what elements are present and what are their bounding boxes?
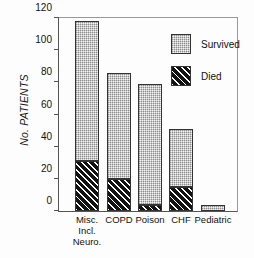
x-tick-label-line: Neuro.: [73, 236, 102, 247]
x-tick-label-poison: Poison: [135, 214, 164, 225]
x-tick-label-line: CHF: [171, 214, 191, 225]
y-tick-120: [54, 17, 59, 18]
x-tick-label-chf: CHF: [171, 214, 191, 225]
legend-entry-survived: Survived: [171, 32, 254, 56]
y-tick-label-100: 100: [35, 34, 52, 45]
bar-segment-survived: [107, 73, 131, 179]
bar-segment-died: [138, 205, 162, 211]
x-tick-label-line: COPD: [105, 214, 132, 225]
plot-area: 0 20 40 60 80 100 120 Misc. Incl. Neuro.: [58, 17, 238, 212]
y-tick-40: [54, 146, 59, 147]
legend-label-survived: Survived: [201, 39, 240, 50]
bar-copd: COPD: [107, 18, 131, 211]
bar-segment-survived: [169, 129, 193, 187]
legend-swatch-survived-icon: [171, 34, 191, 54]
y-tick-label-20: 20: [41, 162, 52, 173]
y-tick-label-60: 60: [41, 98, 52, 109]
legend-swatch-died-icon: [171, 66, 191, 86]
y-tick-label-0: 0: [46, 195, 52, 206]
y-tick-label-40: 40: [41, 130, 52, 141]
legend-entry-died: Died: [171, 64, 254, 88]
y-tick-80: [54, 81, 59, 82]
y-tick-60: [54, 114, 59, 115]
x-tick-label-line: Incl.: [73, 225, 102, 236]
bar-segment-died: [107, 179, 131, 211]
y-tick-0: [54, 210, 59, 211]
bar-segment-survived: [75, 21, 99, 161]
bar-segment-survived: [138, 84, 162, 205]
x-tick-label-copd: COPD: [105, 214, 132, 225]
y-axis-label: No. PATIENTS: [18, 50, 30, 170]
x-tick-label-line: Poison: [135, 214, 164, 225]
chart-figure: No. PATIENTS 0 20 40 60 80 100 120 Misc.…: [0, 0, 254, 258]
y-tick-label-80: 80: [41, 66, 52, 77]
y-tick-100: [54, 49, 59, 50]
y-tick-label-120: 120: [35, 2, 52, 13]
x-tick-label-line: Pediatric: [195, 214, 232, 225]
bar-segment-died: [75, 161, 99, 211]
bar-segment-died: [169, 187, 193, 211]
x-tick-label-pediatric: Pediatric: [195, 214, 232, 225]
chart-legend: Survived Died: [171, 32, 254, 96]
bar-misc-incl-neuro: Misc. Incl. Neuro.: [75, 18, 99, 211]
legend-label-died: Died: [201, 71, 222, 82]
bar-poison: Poison: [138, 18, 162, 211]
x-tick-label-line: Misc.: [73, 214, 102, 225]
x-tick-label-misc: Misc. Incl. Neuro.: [73, 214, 102, 247]
bar-segment-survived: [201, 205, 225, 211]
y-tick-20: [54, 178, 59, 179]
